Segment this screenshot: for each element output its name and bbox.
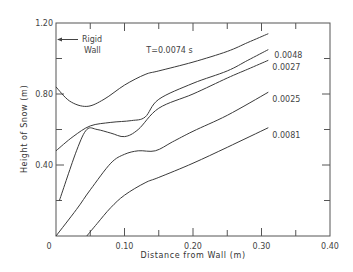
y-tick-label: 0.40: [35, 161, 53, 170]
x-axis-title: Distance from Wall (m): [140, 251, 245, 260]
series-line-3: [59, 60, 268, 200]
x-tick-label: 0.30: [253, 242, 271, 251]
series-line-5: [87, 128, 268, 236]
x-tick-label: 0: [46, 242, 51, 251]
rigid-wall-arrowhead-icon: [57, 38, 62, 42]
series-line-1: [56, 34, 268, 107]
x-tick-label: 0.40: [321, 242, 339, 251]
series-line-2: [56, 50, 268, 151]
series-label-3: 0.0027: [272, 63, 300, 72]
series-label-1: T=0.0074 s: [145, 46, 192, 55]
y-axis-title: Height of Snow (m): [20, 85, 29, 173]
y-tick-label: 0.80: [35, 90, 53, 99]
series-labels: T=0.0074 s0.00480.00270.00250.0081: [145, 46, 302, 140]
series-label-4: 0.0025: [272, 95, 300, 104]
snow-height-chart: 00.100.200.300.40 0.400.801.20 T=0.0074 …: [0, 0, 353, 272]
rigid-wall-annotation: Rigid Wall: [57, 35, 102, 55]
series-label-2: 0.0048: [274, 51, 302, 60]
rigid-wall-label-line1: Rigid: [82, 35, 102, 44]
series-line-4: [56, 92, 268, 236]
x-tick-label: 0.10: [116, 242, 134, 251]
series-lines: [56, 34, 268, 236]
y-tick-label: 1.20: [35, 19, 53, 28]
series-label-5: 0.0081: [272, 131, 300, 140]
rigid-wall-label-line2: Wall: [84, 46, 101, 55]
x-tick-label: 0.20: [184, 242, 202, 251]
